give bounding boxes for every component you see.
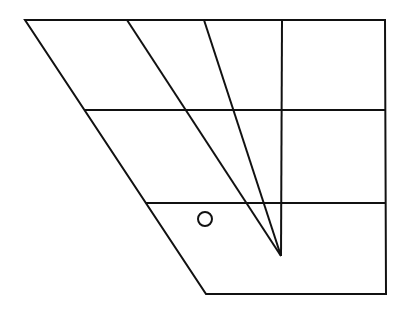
converging-lines [127,20,282,256]
small-circle [198,212,212,226]
geometric-figure [0,0,407,311]
horizontal-lines [84,110,386,203]
outer-trapezoid [25,20,386,294]
diagram-stage [0,0,407,311]
converging-line-3 [281,20,282,256]
converging-line-2 [204,20,281,256]
converging-line-1 [127,20,281,256]
